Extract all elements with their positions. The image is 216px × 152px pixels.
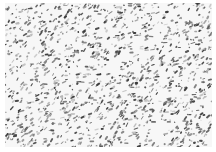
tissue-texture xyxy=(5,3,212,147)
image-frame xyxy=(0,0,216,152)
speckle-pattern xyxy=(5,3,212,147)
